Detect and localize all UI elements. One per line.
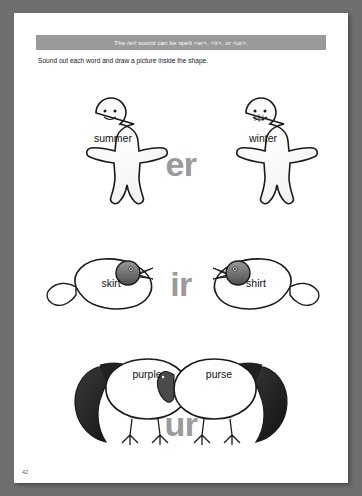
row-er-artwork xyxy=(36,35,326,461)
letters-ur: ur xyxy=(156,405,206,444)
letters-ir: ir xyxy=(156,265,206,304)
word-purple: purple xyxy=(112,368,182,380)
letters-er: er xyxy=(156,145,206,184)
banner-title: The /er/ sound can be spelt <er>, <ir>, … xyxy=(114,39,247,46)
page-number: 42 xyxy=(22,469,28,475)
word-summer: summer xyxy=(78,132,148,144)
word-skirt: skirt xyxy=(76,277,146,289)
instructions-text: Sound out each word and draw a picture i… xyxy=(38,57,208,64)
word-winter: winter xyxy=(228,132,298,144)
header-banner: The /er/ sound can be spelt <er>, <ir>, … xyxy=(36,35,326,50)
gingerbread-right xyxy=(237,98,318,204)
word-shirt: shirt xyxy=(221,277,291,289)
worksheet-content: The /er/ sound can be spelt <er>, <ir>, … xyxy=(36,35,326,461)
worksheet-page: The /er/ sound can be spelt <er>, <ir>, … xyxy=(14,13,348,483)
word-purse: purse xyxy=(184,368,254,380)
